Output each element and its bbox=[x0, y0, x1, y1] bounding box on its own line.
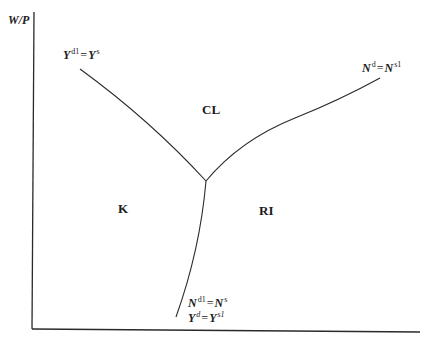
regime-diagram: W/P CL K RI Yd1=Ys Nd=Ns1 Nd1=Ns Yd=Ys1 bbox=[0, 0, 423, 340]
y-axis-label: W/P bbox=[8, 14, 29, 26]
label-op: = bbox=[377, 61, 384, 75]
label-op: = bbox=[207, 296, 214, 310]
y-axis bbox=[32, 12, 34, 329]
labor-market-curve-label: Nd=Ns1 bbox=[362, 61, 401, 74]
label-lhs: N bbox=[188, 296, 197, 310]
label-rhs: Y bbox=[88, 48, 95, 62]
region-repressed-inflation-label: RI bbox=[259, 204, 273, 217]
boundary-label-line1: Nd1=Ns bbox=[188, 296, 227, 309]
label-rhs-sup: s1 bbox=[217, 310, 224, 319]
label-lhs-sup: d1 bbox=[71, 47, 79, 56]
goods-market-curve bbox=[80, 69, 206, 181]
label-rhs-sup: s bbox=[224, 295, 227, 304]
label-lhs: N bbox=[362, 61, 371, 75]
boundary-label-line2: Yd=Ys1 bbox=[188, 311, 225, 324]
x-axis bbox=[32, 329, 420, 332]
label-lhs: Y bbox=[63, 48, 70, 62]
label-lhs-sup: d1 bbox=[198, 295, 206, 304]
region-classical-label: CL bbox=[202, 103, 220, 116]
goods-market-curve-label: Yd1=Ys bbox=[63, 48, 100, 61]
label-rhs: Y bbox=[209, 311, 216, 325]
region-keynesian-label: K bbox=[118, 202, 128, 215]
labor-market-curve bbox=[206, 78, 380, 181]
label-lhs-sup: d bbox=[372, 60, 376, 69]
label-op: = bbox=[80, 48, 87, 62]
label-rhs: N bbox=[214, 296, 223, 310]
label-lhs-sup: d bbox=[196, 310, 200, 319]
label-rhs: N bbox=[384, 61, 393, 75]
label-lhs: Y bbox=[188, 311, 195, 325]
label-op: = bbox=[201, 311, 208, 325]
label-rhs-sup: s bbox=[96, 47, 99, 56]
label-rhs-sup: s1 bbox=[394, 60, 401, 69]
